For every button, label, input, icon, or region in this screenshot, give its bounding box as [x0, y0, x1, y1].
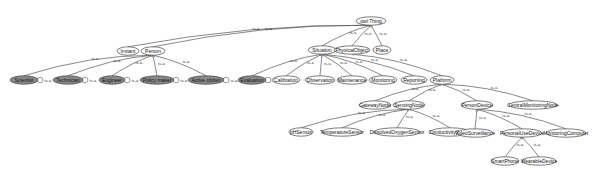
node-monitoring-computer[interactable]: MonitoringComputer	[543, 129, 589, 137]
node-wearable-device[interactable]: WearableDevice	[521, 157, 558, 165]
node-observation[interactable]: Observation	[305, 76, 335, 84]
node-owl-thing[interactable]: owl:Thing	[356, 17, 386, 25]
node-policy-maker[interactable]: Policy maker	[140, 76, 174, 84]
node-technician[interactable]: Technician	[53, 76, 83, 84]
edge-label: is-a	[503, 113, 510, 118]
node-physical-object[interactable]: PhysicalObject	[334, 46, 370, 54]
node-calibration[interactable]: Calibration	[272, 76, 300, 84]
node-label: MonitoringComputer	[543, 130, 589, 136]
node-scientist[interactable]: Scientist	[10, 76, 38, 84]
node-reporting[interactable]: Reporting	[401, 76, 427, 84]
node-evaluation[interactable]: Evaluation	[238, 76, 266, 84]
nodes-layer: owl:ThingInstantPersonSituationPhysicalO…	[10, 17, 589, 165]
edge-label: is-a	[114, 58, 121, 63]
edge-video-surveillance-to-person-device: is-a	[475, 109, 486, 129]
node-sensing-node[interactable]: SensingNode	[393, 101, 425, 109]
node-personal-use-device[interactable]: PersonalUseDevice	[500, 129, 544, 137]
node-label: DissolvedOxygenSensor	[370, 129, 425, 135]
edge-label: is-a	[429, 87, 436, 92]
node-label: Policy maker	[143, 77, 172, 83]
node-person[interactable]: Person	[141, 47, 165, 55]
self-loop-technician: is-a	[82, 77, 97, 83]
node-person-device[interactable]: PersonDevice	[461, 101, 493, 109]
node-label: Active citizen	[191, 77, 220, 83]
node-label: CentralMonitoringNode	[507, 102, 559, 108]
node-label: Engineer	[102, 77, 122, 83]
node-label: Observation	[307, 77, 334, 83]
edge-central-monitoring-node-to-platform: is-a	[442, 83, 533, 101]
edge-label: is-a	[517, 142, 524, 147]
edge-observation-to-situation: is-a	[320, 54, 331, 76]
node-platform[interactable]: Platform	[430, 76, 454, 84]
edge-instant-to-owl-thing: is-a	[128, 24, 371, 47]
edge-person-to-owl-thing: is-a	[153, 24, 371, 47]
node-label: PersonalUseDevice	[500, 130, 544, 136]
node-label: SensingNode	[394, 102, 424, 108]
edge-label: is-a	[158, 61, 165, 66]
edge-label: is-a	[132, 78, 139, 83]
edge-evaluation-to-situation: is-a	[252, 54, 322, 76]
self-loop-scientist: is-a	[37, 77, 52, 83]
node-label: VideoSurveillance	[455, 130, 495, 136]
node-label: GatewayNode	[359, 102, 391, 108]
edge-place-to-owl-thing: is-a	[371, 25, 387, 46]
edges-layer: is-ais-ais-ais-ais-ais-ais-ais-ais-ais-a…	[24, 24, 566, 157]
edge-label: is-a	[380, 31, 387, 36]
edge-label: is-a	[379, 112, 386, 117]
edge-label: is-a	[525, 111, 532, 116]
edge-physical-object-to-owl-thing: is-a	[352, 25, 372, 46]
edge-label: is-a	[265, 26, 272, 31]
edge-label: is-a	[136, 60, 143, 65]
node-central-monitoring-node[interactable]: CentralMonitoringNode	[507, 101, 559, 109]
node-maintenance[interactable]: Maintenance	[337, 76, 367, 84]
edge-label: is-a	[324, 61, 331, 66]
edge-smart-phone-to-personal-use-device: is-a	[505, 137, 524, 157]
edge-wearable-device-to-personal-use-device: is-a	[522, 137, 541, 157]
edge-monitoring-computer-to-person-device: is-a	[477, 108, 566, 128]
node-gateway-node[interactable]: GatewayNode	[359, 101, 391, 109]
node-label: Platform	[433, 77, 452, 83]
edge-label: is-a	[90, 78, 97, 83]
node-place[interactable]: Place	[373, 46, 391, 54]
edge-label: is-a	[231, 78, 238, 83]
node-monitoring[interactable]: Monitoring	[369, 76, 397, 84]
edge-label: is-a	[433, 113, 440, 118]
edge-label: is-a	[371, 57, 378, 62]
node-label: Scientist	[15, 77, 35, 83]
node-video-surveillance[interactable]: VideoSurveillance	[455, 129, 495, 137]
edge-p-hsensor-to-sensing-node: is-a	[301, 108, 409, 128]
edge-label: is-a	[307, 60, 314, 65]
edge-label: is-a	[463, 87, 470, 92]
node-label: WearableDevice	[521, 158, 558, 164]
ontology-graph: is-ais-ais-ais-ais-ais-ais-ais-ais-ais-a…	[0, 0, 596, 174]
edge-conductivity-sensor-to-sensing-node: is-a	[409, 109, 450, 128]
edge-platform-to-physical-object: is-a	[352, 53, 442, 75]
node-temperature-sensor[interactable]: TemperatureSensor	[320, 128, 364, 136]
node-situation[interactable]: Situation	[308, 46, 336, 54]
edge-label: is-a	[412, 86, 419, 91]
edge-label: is-a	[92, 56, 99, 61]
node-smart-phone[interactable]: SmartPhone	[491, 157, 519, 165]
node-engineer[interactable]: Engineer	[99, 76, 125, 84]
node-instant[interactable]: Instant	[117, 47, 139, 55]
edge-label: is-a	[183, 59, 190, 64]
edge-policy-maker-to-person: is-a	[152, 55, 165, 76]
node-active-citizen[interactable]: Active citizen	[188, 76, 224, 84]
node-label: Calibration	[274, 77, 298, 83]
edge-label: is-a	[181, 78, 188, 83]
node-label: pHSensor	[290, 129, 313, 135]
self-loop-active-citizen: is-a	[223, 77, 238, 83]
node-p-hsensor[interactable]: pHSensor	[289, 128, 313, 136]
node-label: Person	[145, 48, 161, 54]
self-loop-policy-maker: is-a	[173, 77, 188, 83]
edge-label: is-a	[406, 114, 413, 119]
node-label: TemperatureSensor	[320, 129, 364, 135]
edge-label: is-a	[358, 110, 365, 115]
node-dissolved-oxygen-sensor[interactable]: DissolvedOxygenSensor	[370, 128, 425, 136]
edge-dissolved-oxygen-sensor-to-sensing-node: is-a	[397, 109, 413, 128]
node-label: Reporting	[403, 77, 425, 83]
edge-label: is-a	[400, 57, 407, 62]
node-label: PhysicalObject	[335, 47, 369, 53]
node-label: PersonDevice	[461, 102, 492, 108]
node-label: Place	[376, 47, 389, 53]
